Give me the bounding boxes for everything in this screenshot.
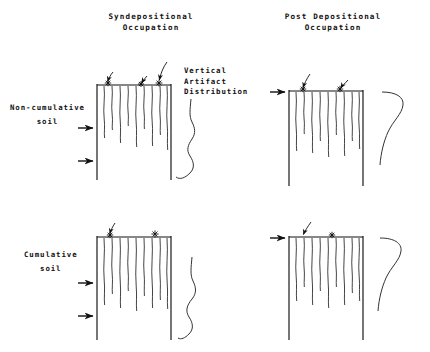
- panel-post-depositional-cumulative: [270, 222, 401, 340]
- profile-box-outline-p1: [97, 84, 171, 180]
- figure-line-art: [0, 0, 430, 352]
- column-heading-syndepositional-line1: Syndepositional: [76, 11, 226, 22]
- surface-artifact-markers-p4: [329, 232, 335, 238]
- caption-line-vertical: Vertical: [184, 66, 248, 77]
- row-label-cumulative-line2: soil: [24, 262, 78, 276]
- pointer-arrows-p1: [108, 62, 167, 83]
- artifact-traces-p1: [104, 86, 168, 150]
- panel-syndepositional-non-cumulative: [78, 62, 195, 180]
- distribution-curve-p1: [176, 99, 195, 178]
- distribution-curve-p2: [380, 92, 403, 165]
- column-heading-syndepositional: Syndepositional Occupation: [76, 11, 226, 33]
- row-label-non-cumulative-line2: soil: [10, 115, 85, 129]
- row-label-non-cumulative-line1: Non-cumulative: [10, 101, 85, 115]
- soil-artifact-distribution-figure: Syndepositional Occupation Post Depositi…: [0, 0, 430, 352]
- surface-artifact-markers-p2: [300, 86, 343, 92]
- surface-artifact-markers-p1: [105, 80, 163, 87]
- artifact-traces-p2: [296, 92, 360, 157]
- column-heading-post-depositional: Post Depositional Occupation: [258, 11, 408, 33]
- caption-line-distribution: Distribution: [184, 87, 248, 98]
- vertical-artifact-distribution-caption: Vertical Artifact Distribution: [184, 66, 248, 98]
- row-label-non-cumulative-soil: Non-cumulative soil: [10, 101, 85, 129]
- artifact-traces-p3: [104, 238, 168, 311]
- column-heading-post-depositional-line1: Post Depositional: [258, 11, 408, 22]
- column-heading-post-depositional-line2: Occupation: [258, 22, 408, 33]
- pointer-arrows-p4: [303, 222, 311, 235]
- panel-syndepositional-cumulative: [78, 223, 196, 340]
- distribution-curve-p3: [178, 257, 196, 339]
- column-heading-syndepositional-line2: Occupation: [76, 22, 226, 33]
- profile-box-outline-p4: [289, 236, 363, 340]
- profile-box-outline-p2: [289, 90, 363, 186]
- row-label-cumulative-line1: Cumulative: [24, 248, 78, 262]
- caption-line-artifact: Artifact: [184, 77, 248, 88]
- pointer-arrows-p3: [110, 223, 115, 234]
- horizon-arrows-p3: [78, 283, 93, 316]
- row-label-cumulative-soil: Cumulative soil: [24, 248, 78, 276]
- horizon-arrows-p1: [78, 128, 93, 161]
- profile-box-outline-p3: [97, 236, 171, 340]
- artifact-traces-p4: [296, 238, 360, 308]
- surface-artifact-markers-p3: [107, 230, 159, 238]
- panel-post-depositional-non-cumulative: [270, 74, 403, 186]
- pointer-arrows-p2: [303, 74, 348, 88]
- distribution-curve-p4: [378, 238, 401, 311]
